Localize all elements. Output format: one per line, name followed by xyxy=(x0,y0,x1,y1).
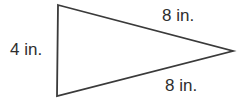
triangle-diagram: 4 in. 8 in. 8 in. xyxy=(0,0,240,102)
triangle-shape xyxy=(57,5,233,96)
top-side-length-label: 8 in. xyxy=(162,7,194,24)
left-side-length-label: 4 in. xyxy=(10,41,42,58)
bottom-side-length-label: 8 in. xyxy=(165,77,197,94)
